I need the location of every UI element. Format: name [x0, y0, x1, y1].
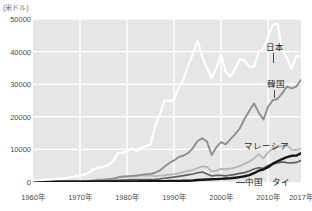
x-tick-label: 2010年	[256, 191, 280, 202]
leader-line-china	[236, 182, 245, 183]
plot-svg	[33, 19, 301, 182]
x-tick-label: 1970年	[68, 191, 92, 202]
x-tick-label: 2000年	[209, 191, 233, 202]
series-label-thailand: タイ	[272, 178, 290, 187]
series-label-china: 中国	[245, 178, 263, 187]
y-tick-label: 20000	[0, 112, 31, 121]
y-axis: 01000020000300004000050000	[0, 0, 31, 211]
series-label-japan: 日本	[266, 43, 284, 52]
y-tick-label: 10000	[0, 145, 31, 154]
series-label-malaysia: マレーシア	[244, 142, 289, 151]
plot-area	[33, 19, 301, 182]
gdp-per-capita-line-chart: (米ドル) 01000020000300004000050000 1960年19…	[0, 0, 312, 211]
leader-line-korea	[274, 90, 275, 98]
x-tick-label: 2017年	[289, 191, 312, 202]
vertical-gridlines	[80, 19, 268, 182]
y-tick-label: 40000	[0, 47, 31, 56]
horizontal-gridlines	[33, 19, 301, 149]
series-label-korea: 韓国	[267, 80, 285, 89]
series-line	[33, 80, 301, 182]
x-axis: 1960年1970年1980年1990年2000年2010年2017年	[0, 186, 312, 206]
series-lines	[33, 24, 301, 182]
x-tick-label: 1980年	[115, 191, 139, 202]
y-tick-label: 30000	[0, 80, 31, 89]
x-tick-label: 1960年	[21, 191, 45, 202]
x-tick-label: 1990年	[162, 191, 186, 202]
leader-line-japan	[273, 53, 274, 63]
y-tick-label: 50000	[0, 15, 31, 24]
